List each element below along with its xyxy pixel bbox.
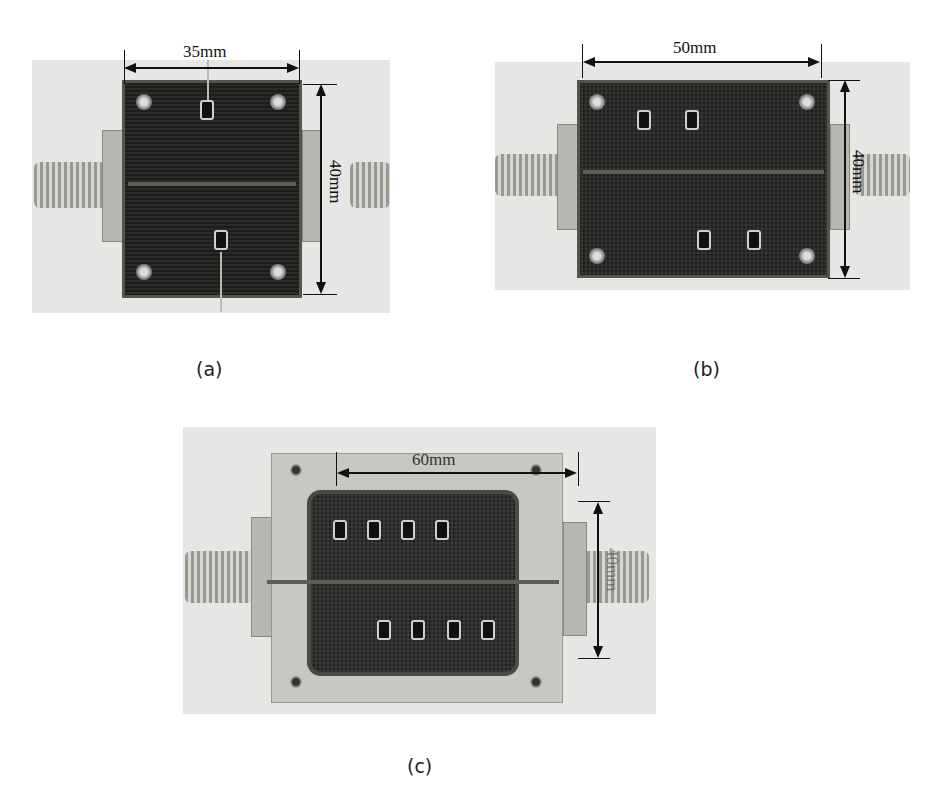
width-label-c: 60mm [412, 450, 455, 470]
chip-component [685, 110, 699, 130]
chip-component [411, 620, 425, 640]
connector-flange-left [102, 130, 124, 242]
chip-component [447, 620, 461, 640]
chip-component [214, 230, 228, 250]
arrow-down-icon [316, 282, 326, 294]
arrow-left-icon [337, 468, 349, 478]
arrow-up-icon [840, 80, 850, 92]
screw-icon [270, 94, 286, 110]
arrow-left-icon [583, 57, 595, 67]
pcb-board [577, 80, 830, 278]
sma-connector-right [350, 162, 390, 208]
height-label-a: 40mm [325, 160, 345, 203]
metal-housing [271, 453, 563, 703]
dimension-line-height [597, 507, 599, 653]
chip-component [481, 620, 495, 640]
chip-component [435, 520, 449, 540]
arrow-right-icon [565, 468, 577, 478]
screw-icon [136, 94, 152, 110]
arrow-down-icon [593, 646, 603, 658]
photo-c [183, 427, 656, 714]
chip-component [637, 110, 651, 130]
width-label-b: 50mm [673, 38, 716, 58]
connector-flange-right [830, 124, 850, 230]
height-label-b: 40mm [848, 150, 868, 193]
caption-c: (c) [407, 755, 432, 777]
caption-b: (b) [693, 358, 720, 380]
chip-component [697, 230, 711, 250]
dimension-tick [828, 278, 860, 279]
dimension-tick [578, 658, 610, 659]
arrow-right-icon [808, 57, 820, 67]
width-label-a: 35mm [183, 42, 226, 62]
caption-a: (a) [196, 358, 222, 380]
sma-connector-left [495, 154, 565, 196]
dimension-tick [578, 452, 579, 486]
connector-flange-left [557, 124, 579, 230]
height-label-c: 40mm [602, 548, 622, 591]
wire-lead [220, 252, 222, 312]
pcb-board [122, 80, 302, 298]
dimension-line-width [342, 472, 572, 474]
arrow-down-icon [840, 266, 850, 278]
chip-component [747, 230, 761, 250]
dimension-line-width [130, 67, 294, 69]
chip-component [333, 520, 347, 540]
dimension-line-height [320, 90, 322, 290]
screw-icon [589, 248, 605, 264]
dimension-tick [303, 294, 337, 295]
screw-icon [589, 94, 605, 110]
sma-connector-left [185, 551, 255, 603]
dimension-line-height [844, 86, 846, 274]
dimension-line-width [588, 61, 816, 63]
mounting-hole-icon [290, 676, 302, 688]
screw-icon [136, 264, 152, 280]
arrow-right-icon [287, 63, 299, 73]
arrow-up-icon [316, 84, 326, 96]
connector-flange-right [563, 522, 587, 636]
wire-lead [207, 60, 209, 100]
connector-flange-right [302, 130, 322, 242]
screw-icon [270, 264, 286, 280]
microstrip-line [267, 580, 559, 584]
screw-icon [799, 248, 815, 264]
arrow-left-icon [124, 63, 136, 73]
chip-component [200, 100, 214, 120]
arrow-up-icon [593, 502, 603, 514]
chip-component [377, 620, 391, 640]
mounting-hole-icon [290, 464, 302, 476]
pcb-cavity [307, 490, 519, 676]
dimension-tick [299, 50, 300, 84]
dimension-tick [821, 44, 822, 78]
mounting-hole-icon [530, 464, 542, 476]
mounting-hole-icon [530, 676, 542, 688]
microstrip-line [583, 170, 824, 174]
microstrip-line [128, 182, 296, 186]
sma-connector-left [34, 162, 106, 208]
screw-icon [799, 94, 815, 110]
chip-component [401, 520, 415, 540]
chip-component [367, 520, 381, 540]
